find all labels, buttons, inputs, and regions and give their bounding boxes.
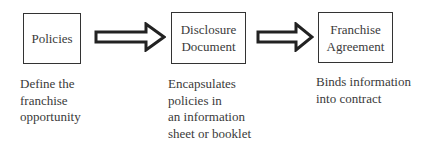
node-disclosure-document: Disclosure Document — [171, 12, 246, 64]
node-policies: Policies — [23, 13, 81, 64]
description-policies: Define the franchise opportunity — [20, 76, 81, 126]
node-label: Policies — [31, 30, 72, 47]
arrow-right-icon — [94, 22, 166, 52]
description-disclosure-document: Encapsulates policies in an information … — [168, 76, 251, 142]
arrow-right-icon — [256, 22, 314, 52]
description-franchise-agreement: Binds information into contract — [316, 74, 411, 107]
node-label: Disclosure Document — [181, 21, 237, 55]
node-label: Franchise Agreement — [327, 21, 385, 55]
node-franchise-agreement: Franchise Agreement — [318, 12, 393, 63]
